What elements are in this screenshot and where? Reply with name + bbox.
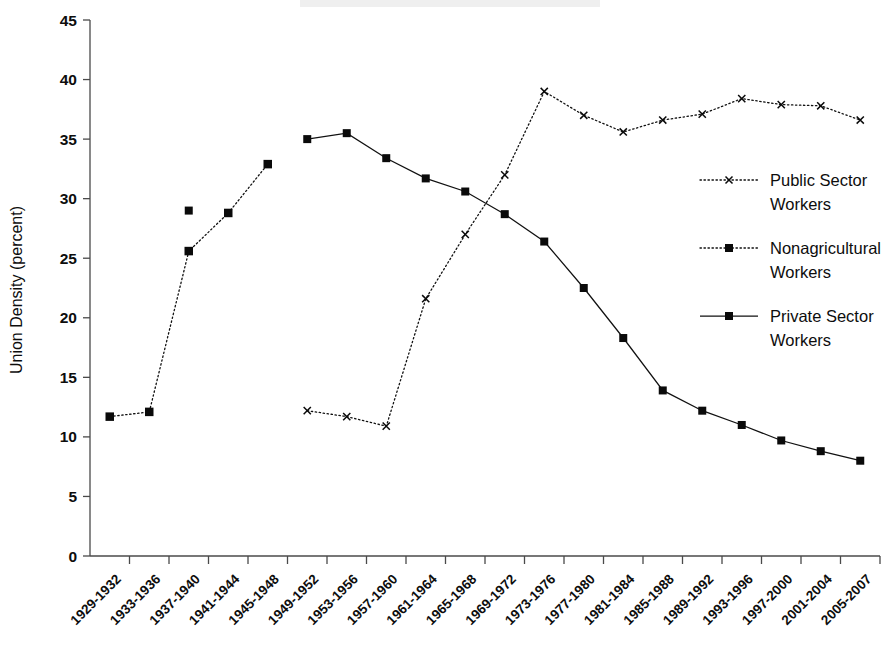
x-axis: 1929-19321933-19361937-19401941-19441945…	[68, 556, 880, 628]
legend-label-line2: Workers	[770, 195, 831, 213]
data-point-marker	[619, 334, 627, 342]
data-point-marker	[264, 160, 273, 169]
data-point-marker	[145, 408, 154, 417]
legend-label-line1: Nonagricultural	[770, 239, 881, 257]
data-point-marker	[738, 421, 746, 429]
y-tick-label: 10	[60, 428, 77, 445]
data-series-group	[106, 88, 865, 465]
data-point-marker	[343, 129, 351, 137]
y-tick-label: 40	[60, 71, 77, 88]
legend-marker-square	[725, 312, 733, 320]
data-point-marker	[303, 135, 311, 143]
chart-container: 051015202530354045 1929-19321933-1936193…	[0, 0, 896, 651]
y-tick-label: 0	[68, 548, 77, 565]
data-point-marker	[224, 209, 233, 218]
legend-label-line2: Workers	[770, 331, 831, 349]
data-point-marker	[422, 174, 430, 182]
series-line	[307, 92, 860, 427]
data-point-marker	[540, 238, 548, 246]
legend-label-line1: Public Sector	[770, 171, 868, 189]
data-point-marker	[580, 112, 587, 119]
data-point-marker	[462, 231, 469, 238]
y-tick-label: 25	[60, 250, 78, 267]
y-tick-label: 15	[60, 369, 78, 386]
data-point-marker	[541, 88, 548, 95]
data-point-marker	[501, 210, 509, 218]
y-axis-title: Union Density (percent)	[8, 206, 25, 374]
data-point-marker	[777, 436, 785, 444]
data-point-marker	[185, 207, 193, 215]
y-tick-label: 30	[60, 190, 77, 207]
y-tick-label: 35	[60, 131, 78, 148]
chart-legend: Public SectorWorkersNonagriculturalWorke…	[700, 171, 881, 349]
legend-label-line1: Private Sector	[770, 307, 874, 325]
data-point-marker	[857, 116, 864, 123]
data-point-marker	[461, 188, 469, 196]
data-point-marker	[106, 412, 115, 421]
data-point-marker	[185, 247, 194, 256]
y-axis: 051015202530354045	[60, 12, 90, 565]
data-point-marker	[856, 457, 864, 465]
series-3	[185, 129, 865, 465]
data-point-marker	[580, 284, 588, 292]
y-tick-label: 5	[68, 488, 77, 505]
y-tick-label: 20	[60, 309, 77, 326]
legend-entry-2[interactable]: NonagriculturalWorkers	[700, 239, 881, 281]
data-point-marker	[383, 423, 390, 430]
series-line	[110, 164, 268, 417]
data-point-marker	[817, 102, 824, 109]
data-point-marker	[304, 407, 311, 414]
legend-label-line2: Workers	[770, 263, 831, 281]
data-point-marker	[659, 386, 667, 394]
series-1	[304, 88, 864, 430]
data-point-marker	[382, 154, 390, 162]
top-edge-artifact	[300, 0, 600, 7]
data-point-marker	[501, 171, 508, 178]
data-point-marker	[698, 407, 706, 415]
legend-entry-3[interactable]: Private SectorWorkers	[700, 307, 874, 349]
union-density-line-chart: 051015202530354045 1929-19321933-1936193…	[0, 0, 896, 651]
data-point-marker	[422, 295, 429, 302]
y-tick-label: 45	[60, 12, 78, 29]
legend-entry-1[interactable]: Public SectorWorkers	[700, 171, 868, 213]
data-point-marker	[817, 447, 825, 455]
series-2	[106, 160, 273, 421]
data-point-marker	[620, 128, 627, 135]
legend-marker-square	[725, 244, 733, 252]
